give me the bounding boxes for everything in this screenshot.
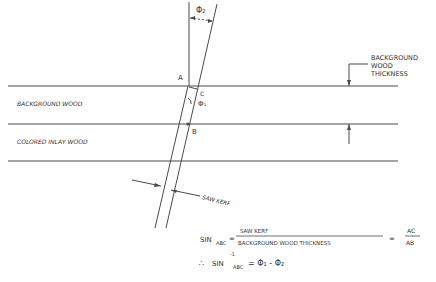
eq-sin: SIN bbox=[200, 236, 212, 244]
eq-result: = Φ₁ - Φ₂ bbox=[248, 259, 284, 268]
arrowhead-icon bbox=[347, 124, 351, 130]
saw-kerf-label: SAW KERF bbox=[202, 194, 232, 207]
arrowhead-icon bbox=[347, 80, 351, 86]
equation: SIN ABC = SAW KERF BACKGROUND WOOD THICK… bbox=[199, 227, 420, 270]
point-b-dot bbox=[186, 122, 189, 125]
eq-equals-2: = bbox=[389, 235, 395, 243]
arrowhead-icon bbox=[154, 183, 161, 187]
arrowhead-icon bbox=[190, 16, 195, 20]
thickness-label-2: WOOD bbox=[371, 62, 393, 70]
thickness-label-1: BACKGROUND bbox=[371, 54, 418, 62]
eq-ac: AC bbox=[407, 227, 415, 234]
eq-denominator: BACKGROUND WOOD THICKNESS bbox=[238, 240, 331, 246]
background-wood-label: BACKGROUND WOOD bbox=[17, 100, 83, 107]
eq-sub-abc-2: ABC bbox=[233, 264, 244, 270]
eq-superscript: -1 bbox=[230, 251, 235, 257]
eq-sin-2: SIN bbox=[212, 260, 224, 268]
arrowhead-icon bbox=[208, 19, 213, 23]
eq-ab: AB bbox=[406, 239, 414, 246]
colored-inlay-wood-label: COLORED INLAY WOOD bbox=[17, 138, 88, 145]
point-a-label: A bbox=[178, 74, 183, 82]
eq-therefore: ∴ bbox=[199, 259, 204, 268]
eq-numerator: SAW KERF bbox=[240, 228, 268, 234]
kerf-line-left bbox=[155, 86, 188, 228]
thickness-label-3: THICKNESS bbox=[370, 70, 408, 78]
inlay-kerf-diagram: Φ₂ BACKGROUND WOOD THICKNESS BACKGROUND … bbox=[0, 0, 436, 282]
eq-sub-abc: ABC bbox=[216, 240, 227, 246]
eq-equals: = bbox=[229, 235, 235, 243]
ac-segment bbox=[189, 87, 197, 89]
phi1-label: Φ₁ bbox=[198, 100, 207, 108]
point-c-label: C bbox=[200, 90, 204, 97]
phi2-label: Φ₂ bbox=[196, 6, 206, 15]
phi1-arc bbox=[188, 98, 191, 104]
point-b-label: B bbox=[192, 128, 197, 136]
